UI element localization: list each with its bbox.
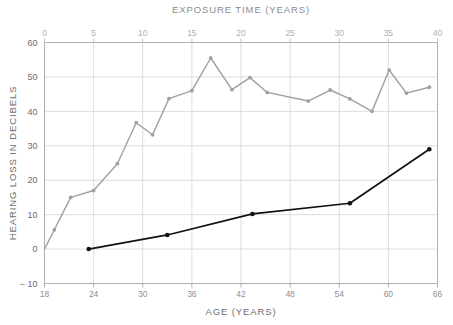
x-axis-title: AGE (YEARS): [205, 306, 276, 317]
top-tick-label: 20: [236, 28, 246, 38]
y-tick-label: 20: [27, 175, 37, 185]
data-point: [134, 121, 138, 125]
data-series: [45, 56, 432, 251]
data-point: [348, 97, 352, 101]
data-point: [209, 56, 213, 60]
axis-labels: 1824303642485460660510152025303540− 1001…: [7, 4, 442, 317]
x-tick-label: 42: [236, 289, 246, 299]
x-tick-label: 18: [40, 289, 50, 299]
data-point: [115, 162, 119, 166]
y-tick-label: 50: [27, 72, 37, 82]
y-tick-label: 40: [27, 107, 37, 117]
y-axis-title: HEARING LOSS IN DECIBELS: [7, 86, 18, 241]
data-point: [52, 228, 56, 232]
data-point: [328, 88, 332, 92]
top-tick-label: 35: [384, 28, 394, 38]
data-point: [387, 68, 391, 72]
data-point: [404, 91, 408, 95]
data-point: [427, 147, 432, 152]
top-tick-label: 5: [91, 28, 96, 38]
x-tick-label: 66: [433, 289, 443, 299]
gridlines: [45, 43, 438, 284]
x-tick-label: 36: [187, 289, 197, 299]
data-point: [167, 97, 171, 101]
top-axis-title: EXPOSURE TIME (YEARS): [172, 4, 310, 15]
data-point: [427, 85, 431, 89]
data-point: [92, 189, 96, 193]
y-tick-label: 60: [27, 38, 37, 48]
data-point: [250, 212, 255, 217]
series-line-exposed-group: [45, 58, 430, 249]
data-point: [348, 201, 353, 206]
y-tick-label: − 10: [20, 279, 38, 289]
top-tick-label: 15: [187, 28, 197, 38]
x-tick-label: 48: [285, 289, 295, 299]
data-point: [248, 76, 252, 80]
chart-canvas: 1824303642485460660510152025303540− 1001…: [0, 0, 453, 325]
hearing-loss-chart: 1824303642485460660510152025303540− 1001…: [0, 0, 453, 325]
data-point: [86, 247, 91, 252]
data-point: [190, 89, 194, 93]
data-point: [306, 99, 310, 103]
x-tick-label: 60: [384, 289, 394, 299]
x-tick-label: 54: [335, 289, 345, 299]
y-tick-label: 0: [32, 244, 37, 254]
series-line-control-group: [89, 149, 430, 249]
data-point: [265, 91, 269, 95]
y-tick-label: 10: [27, 210, 37, 220]
top-tick-label: 30: [335, 28, 345, 38]
x-tick-label: 24: [89, 289, 99, 299]
data-point: [370, 109, 374, 113]
top-tick-label: 40: [433, 28, 443, 38]
top-tick-label: 25: [285, 28, 295, 38]
top-tick-label: 0: [42, 28, 47, 38]
x-tick-label: 30: [138, 289, 148, 299]
data-point: [151, 133, 155, 137]
top-tick-label: 10: [138, 28, 148, 38]
data-point: [230, 88, 234, 92]
data-point: [165, 233, 170, 238]
data-point: [69, 196, 73, 200]
y-tick-label: 30: [27, 141, 37, 151]
